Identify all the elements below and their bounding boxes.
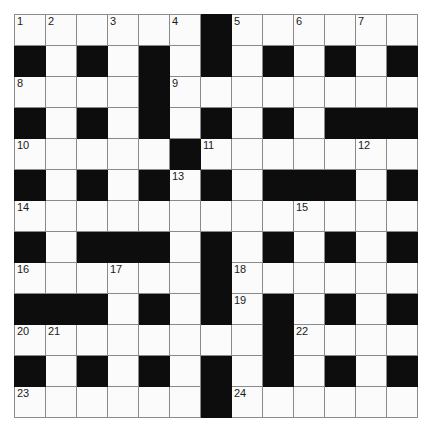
crossword-cell[interactable] [325, 139, 356, 170]
crossword-cell[interactable] [263, 139, 294, 170]
crossword-cell[interactable]: 21 [46, 325, 77, 356]
crossword-cell[interactable] [77, 15, 108, 46]
crossword-cell[interactable] [232, 356, 263, 387]
crossword-cell[interactable]: 5 [232, 15, 263, 46]
crossword-cell[interactable] [294, 108, 325, 139]
crossword-cell[interactable] [46, 46, 77, 77]
crossword-cell[interactable] [139, 387, 170, 418]
crossword-cell[interactable] [232, 170, 263, 201]
crossword-grid[interactable]: 123456789101112131415161718192021222324 [14, 14, 418, 418]
crossword-cell[interactable] [294, 232, 325, 263]
crossword-cell[interactable] [232, 232, 263, 263]
crossword-cell[interactable] [46, 77, 77, 108]
crossword-cell[interactable] [46, 108, 77, 139]
crossword-cell[interactable] [77, 201, 108, 232]
crossword-cell[interactable] [108, 108, 139, 139]
crossword-cell[interactable] [356, 77, 387, 108]
crossword-cell[interactable] [108, 201, 139, 232]
crossword-cell[interactable] [232, 108, 263, 139]
crossword-cell[interactable] [108, 77, 139, 108]
crossword-cell[interactable]: 10 [15, 139, 46, 170]
crossword-cell[interactable] [77, 387, 108, 418]
crossword-cell[interactable] [139, 263, 170, 294]
crossword-cell[interactable] [263, 263, 294, 294]
crossword-cell[interactable] [356, 387, 387, 418]
crossword-cell[interactable] [170, 294, 201, 325]
crossword-cell[interactable] [356, 46, 387, 77]
crossword-cell[interactable] [46, 232, 77, 263]
crossword-cell[interactable]: 19 [232, 294, 263, 325]
crossword-cell[interactable]: 16 [15, 263, 46, 294]
crossword-cell[interactable] [356, 263, 387, 294]
crossword-cell[interactable]: 6 [294, 15, 325, 46]
crossword-cell[interactable] [294, 46, 325, 77]
crossword-cell[interactable] [387, 201, 418, 232]
crossword-cell[interactable] [356, 294, 387, 325]
crossword-cell[interactable] [77, 325, 108, 356]
crossword-cell[interactable] [139, 15, 170, 46]
crossword-cell[interactable] [201, 325, 232, 356]
crossword-cell[interactable] [263, 15, 294, 46]
crossword-cell[interactable] [170, 263, 201, 294]
crossword-cell[interactable]: 4 [170, 15, 201, 46]
crossword-cell[interactable] [108, 325, 139, 356]
crossword-cell[interactable]: 12 [356, 139, 387, 170]
crossword-cell[interactable] [77, 139, 108, 170]
crossword-cell[interactable] [139, 201, 170, 232]
crossword-cell[interactable] [387, 15, 418, 46]
crossword-cell[interactable] [232, 201, 263, 232]
crossword-cell[interactable] [356, 325, 387, 356]
crossword-cell[interactable] [77, 77, 108, 108]
crossword-cell[interactable]: 14 [15, 201, 46, 232]
crossword-cell[interactable] [294, 77, 325, 108]
crossword-cell[interactable] [201, 201, 232, 232]
crossword-cell[interactable]: 17 [108, 263, 139, 294]
crossword-cell[interactable] [232, 77, 263, 108]
crossword-cell[interactable] [325, 325, 356, 356]
crossword-cell[interactable] [139, 139, 170, 170]
crossword-cell[interactable] [294, 356, 325, 387]
crossword-cell[interactable] [108, 46, 139, 77]
crossword-cell[interactable] [232, 46, 263, 77]
crossword-cell[interactable] [325, 77, 356, 108]
crossword-cell[interactable]: 24 [232, 387, 263, 418]
crossword-cell[interactable] [170, 325, 201, 356]
crossword-cell[interactable] [139, 325, 170, 356]
crossword-cell[interactable] [294, 139, 325, 170]
crossword-cell[interactable]: 20 [15, 325, 46, 356]
crossword-cell[interactable] [325, 263, 356, 294]
crossword-cell[interactable] [170, 108, 201, 139]
crossword-cell[interactable]: 18 [232, 263, 263, 294]
crossword-cell[interactable] [108, 387, 139, 418]
crossword-cell[interactable] [294, 263, 325, 294]
crossword-cell[interactable] [356, 356, 387, 387]
crossword-cell[interactable] [108, 356, 139, 387]
crossword-cell[interactable] [170, 387, 201, 418]
crossword-cell[interactable] [356, 232, 387, 263]
crossword-cell[interactable] [387, 263, 418, 294]
crossword-cell[interactable] [77, 263, 108, 294]
crossword-cell[interactable]: 15 [294, 201, 325, 232]
crossword-cell[interactable] [325, 201, 356, 232]
crossword-cell[interactable] [108, 170, 139, 201]
crossword-cell[interactable]: 9 [170, 77, 201, 108]
crossword-cell[interactable] [325, 15, 356, 46]
crossword-cell[interactable] [46, 201, 77, 232]
crossword-cell[interactable] [263, 387, 294, 418]
crossword-cell[interactable] [170, 356, 201, 387]
crossword-cell[interactable] [387, 77, 418, 108]
crossword-cell[interactable]: 22 [294, 325, 325, 356]
crossword-cell[interactable] [232, 325, 263, 356]
crossword-cell[interactable] [46, 356, 77, 387]
crossword-cell[interactable] [356, 170, 387, 201]
crossword-cell[interactable] [170, 201, 201, 232]
crossword-cell[interactable] [46, 139, 77, 170]
crossword-cell[interactable] [46, 387, 77, 418]
crossword-cell[interactable] [170, 232, 201, 263]
crossword-cell[interactable] [325, 387, 356, 418]
crossword-cell[interactable]: 1 [15, 15, 46, 46]
crossword-cell[interactable]: 7 [356, 15, 387, 46]
crossword-cell[interactable]: 2 [46, 15, 77, 46]
crossword-cell[interactable] [108, 139, 139, 170]
crossword-cell[interactable] [46, 170, 77, 201]
